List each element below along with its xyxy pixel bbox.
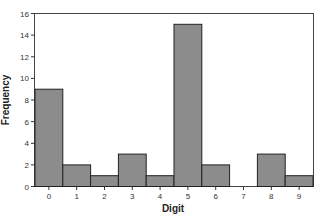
x-axis: 0123456789 (47, 187, 302, 202)
x-tick-label: 2 (102, 192, 107, 201)
histogram-bar-3 (118, 154, 146, 186)
histogram-bar-2 (91, 176, 119, 187)
x-tick-label: 7 (241, 192, 246, 201)
histogram-bar-8 (257, 154, 285, 186)
histogram-bar-4 (146, 176, 174, 187)
x-tick-label: 6 (213, 192, 218, 201)
y-tick-label: 8 (25, 96, 30, 105)
x-tick-label: 9 (297, 192, 302, 201)
y-tick-label: 6 (25, 118, 30, 127)
x-tick-label: 4 (158, 192, 163, 201)
y-tick-label: 4 (25, 139, 30, 148)
histogram-bar-9 (285, 176, 313, 187)
histogram-bar-6 (202, 165, 230, 187)
histogram-bar-0 (35, 89, 63, 186)
y-axis: 0246810121416 (20, 10, 34, 192)
y-tick-label: 14 (20, 31, 29, 40)
x-tick-label: 3 (130, 192, 135, 201)
y-tick-label: 12 (20, 53, 29, 62)
y-tick-label: 2 (25, 161, 30, 170)
y-tick-label: 16 (20, 10, 29, 19)
x-tick-label: 8 (269, 192, 274, 201)
x-tick-label: 1 (74, 192, 79, 201)
histogram-bar-1 (63, 165, 91, 187)
x-axis-title: Digit (162, 203, 185, 214)
x-tick-label: 5 (186, 192, 191, 201)
histogram-chart: 0246810121416 0123456789 Digit Frequency (0, 0, 326, 222)
x-tick-label: 0 (47, 192, 52, 201)
histogram-bar-5 (174, 24, 202, 186)
y-tick-label: 10 (20, 74, 29, 83)
y-tick-label: 0 (25, 183, 30, 192)
y-axis-title: Frequency (0, 74, 11, 125)
